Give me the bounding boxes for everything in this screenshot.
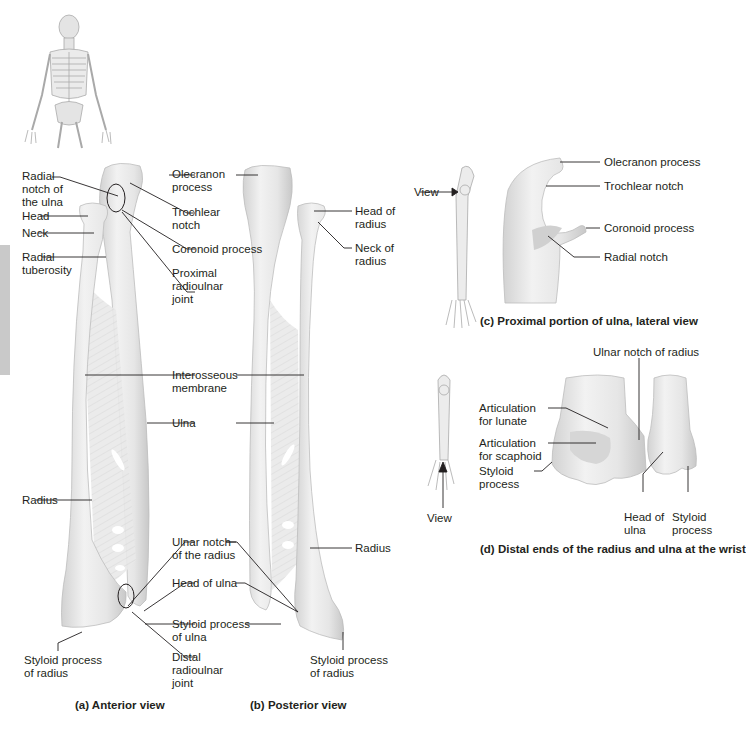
label-trochlear-notch: Trochlear notch: [172, 206, 220, 232]
caption-proximal-ulna: (c) Proximal portion of ulna, lateral vi…: [480, 315, 698, 327]
posterior-bones: [243, 165, 344, 640]
label-interosseous-membrane: Interosseous membrane: [172, 369, 238, 395]
label-styloid-process-of-radius-posterior: Styloid process of radius: [310, 654, 388, 680]
label-olecranon-process: Olecranon process: [172, 168, 225, 194]
label-articulation-for-scaphoid: Articulation for scaphoid: [479, 437, 542, 463]
label-ulnar-notch-of-radius: Ulnar notch of the radius: [172, 536, 235, 562]
label-ulnar-notch-of-radius-distal: Ulnar notch of radius: [593, 346, 699, 359]
distal-ends: [552, 375, 696, 485]
label-head-of-radius: Head of radius: [355, 205, 395, 231]
label-head-of-ulna-distal: Head of ulna: [624, 511, 664, 537]
label-radius-anterior: Radius: [22, 494, 58, 507]
caption-posterior-view: (b) Posterior view: [250, 699, 347, 711]
label-olecranon-process-lateral: Olecranon process: [604, 156, 701, 169]
label-neck-of-radius: Neck of radius: [355, 242, 394, 268]
label-view-distal: View: [427, 512, 452, 525]
label-styloid-process-ulna-distal: Styloid process: [672, 511, 712, 537]
proximal-ulna-lateral: [503, 158, 586, 303]
label-radial-notch-of-ulna: Radial notch of the ulna: [22, 170, 63, 209]
caption-distal-ends: (d) Distal ends of the radius and ulna a…: [480, 543, 746, 555]
label-radial-tuberosity: Radial tuberosity: [22, 251, 72, 277]
label-ulna: Ulna: [172, 417, 196, 430]
label-proximal-radioulnar-joint: Proximal radioulnar joint: [172, 267, 223, 306]
label-styloid-process-of-ulna: Styloid process of ulna: [172, 618, 250, 644]
label-coronoid-process: Coronoid process: [172, 243, 262, 256]
skeleton-thumbnail: [25, 15, 111, 148]
label-coronoid-process-lateral: Coronoid process: [604, 222, 694, 235]
arm-thumbnail-distal: [428, 375, 454, 490]
label-styloid-process-of-radius-anterior: Styloid process of radius: [24, 654, 102, 680]
label-trochlear-notch-lateral: Trochlear notch: [604, 180, 683, 193]
label-radial-notch-lateral: Radial notch: [604, 251, 668, 264]
caption-anterior-view: (a) Anterior view: [75, 699, 165, 711]
label-head-of-ulna: Head of ulna: [172, 577, 237, 590]
label-neck: Neck: [22, 227, 48, 240]
label-head: Head: [22, 210, 50, 223]
label-view-lateral: View: [414, 186, 439, 199]
arm-thumbnail-lateral: [446, 166, 476, 328]
label-radius-posterior: Radius: [355, 542, 391, 555]
label-articulation-for-lunate: Articulation for lunate: [479, 402, 536, 428]
label-distal-radioulnar-joint: Distal radioulnar joint: [172, 651, 223, 690]
label-styloid-process-radius-distal: Styloid process: [479, 465, 519, 491]
